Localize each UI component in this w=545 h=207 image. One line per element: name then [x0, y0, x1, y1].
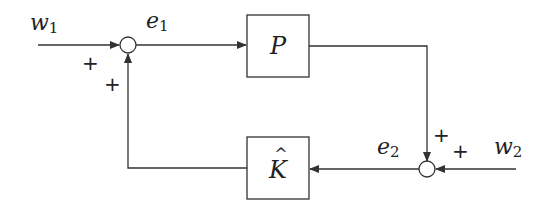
sum1-sign-bottom: +	[104, 72, 121, 96]
sum2-sign-top: +	[433, 123, 450, 147]
k-feedback-line	[128, 54, 247, 168]
label-w1: w1	[30, 10, 58, 37]
sum1-sign-left: +	[82, 51, 99, 75]
k-hat-accent: ^	[274, 145, 287, 164]
p-output-line	[309, 46, 427, 161]
block-p-label: P	[269, 32, 287, 60]
label-e2: e2	[377, 134, 400, 161]
label-w2: w2	[494, 134, 522, 161]
summer-1	[120, 37, 136, 53]
sum2-sign-right: +	[452, 139, 469, 163]
label-e1: e1	[146, 8, 169, 35]
block-diagram: w1 e1 e2 w2 P K ^ + + + +	[0, 0, 545, 207]
summer-2	[419, 161, 435, 177]
